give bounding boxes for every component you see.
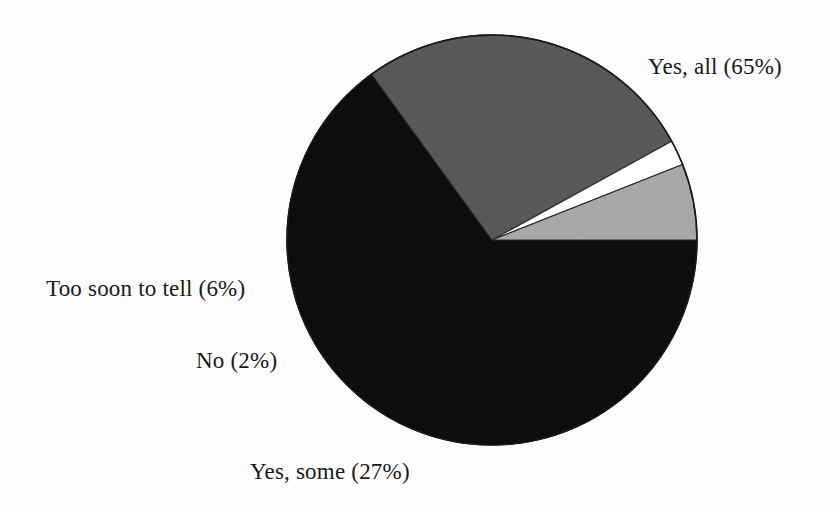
pie-label-yes-some: Yes, some (27%) (250, 459, 410, 485)
pie-label-no: No (2%) (196, 348, 277, 374)
pie-label-yes-all: Yes, all (65%) (648, 54, 782, 80)
pie-label-too-soon-to-tell: Too soon to tell (6%) (46, 276, 245, 302)
pie-chart-figure: Yes, all (65%) Yes, some (27%) No (2%) T… (0, 0, 838, 510)
